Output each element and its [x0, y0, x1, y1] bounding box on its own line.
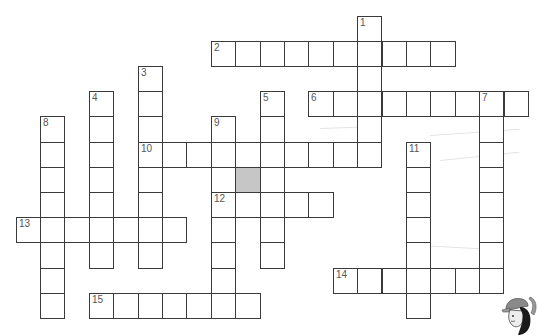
- crossword-cell[interactable]: [260, 192, 285, 218]
- crossword-cell[interactable]: [260, 217, 285, 243]
- crossword-cell[interactable]: [211, 293, 236, 319]
- crossword-cell[interactable]: [40, 167, 65, 193]
- crossword-cell[interactable]: [138, 116, 163, 143]
- crossword-cell[interactable]: 15: [89, 293, 114, 319]
- crossword-cell[interactable]: 9: [211, 116, 236, 143]
- crossword-cell[interactable]: [406, 268, 431, 294]
- crossword-cell[interactable]: [211, 268, 236, 294]
- crossword-cell[interactable]: [430, 91, 456, 117]
- crossword-cell[interactable]: [406, 242, 431, 269]
- crossword-cell[interactable]: [40, 293, 65, 319]
- crossword-cell[interactable]: [40, 192, 65, 218]
- crossword-cell[interactable]: [479, 217, 504, 243]
- crossword-cell[interactable]: [89, 167, 114, 193]
- crossword-cell[interactable]: [113, 293, 139, 319]
- crossword-cell[interactable]: [138, 293, 163, 319]
- crossword-cell[interactable]: [357, 268, 382, 294]
- crossword-cell[interactable]: [479, 268, 504, 294]
- crossword-cell[interactable]: [406, 91, 431, 117]
- crossword-cell[interactable]: [308, 142, 334, 168]
- crossword-cell[interactable]: [138, 217, 163, 243]
- crossword-cell[interactable]: [162, 142, 187, 168]
- crossword-cell[interactable]: [406, 217, 431, 243]
- crossword-cell[interactable]: [284, 192, 309, 218]
- crossword-cell[interactable]: [382, 41, 407, 67]
- crossword-cell[interactable]: [406, 167, 431, 193]
- crossword-cell[interactable]: 11: [406, 142, 431, 168]
- crossword-cell[interactable]: [211, 167, 236, 193]
- crossword-cell[interactable]: [235, 41, 261, 67]
- clue-number: 13: [19, 219, 30, 229]
- crossword-cell[interactable]: [186, 142, 212, 168]
- crossword-cell[interactable]: [479, 167, 504, 193]
- crossword-cell[interactable]: [162, 293, 187, 319]
- crossword-cell[interactable]: [308, 41, 334, 67]
- crossword-cell[interactable]: [40, 242, 65, 269]
- crossword-cell[interactable]: [260, 167, 285, 193]
- crossword-cell[interactable]: [89, 242, 114, 269]
- crossword-cell[interactable]: [260, 242, 285, 269]
- crossword-cell[interactable]: [406, 41, 431, 67]
- crossword-cell[interactable]: 1: [357, 16, 382, 42]
- crossword-cell[interactable]: [284, 41, 309, 67]
- crossword-cell[interactable]: 14: [333, 268, 358, 294]
- crossword-cell[interactable]: [406, 293, 431, 319]
- crossword-cell[interactable]: [382, 268, 407, 294]
- crossword-cell[interactable]: [406, 192, 431, 218]
- crossword-cell[interactable]: [260, 142, 285, 168]
- crossword-cell[interactable]: 3: [138, 66, 163, 92]
- crossword-cell[interactable]: [455, 91, 480, 117]
- crossword-cell[interactable]: 2: [211, 41, 236, 67]
- crossword-cell[interactable]: [260, 116, 285, 143]
- crossword-cell[interactable]: [89, 116, 114, 143]
- crossword-cell[interactable]: [357, 91, 382, 117]
- crossword-cell[interactable]: [357, 142, 382, 168]
- crossword-cell[interactable]: 8: [40, 116, 65, 143]
- crossword-cell[interactable]: 13: [16, 217, 41, 243]
- crossword-cell[interactable]: [138, 167, 163, 193]
- crossword-cell[interactable]: [138, 91, 163, 117]
- crossword-cell[interactable]: [235, 142, 261, 168]
- crossword-cell[interactable]: 7: [479, 91, 504, 117]
- crossword-cell[interactable]: [211, 142, 236, 168]
- crossword-cell[interactable]: [333, 91, 358, 117]
- crossword-cell[interactable]: [235, 293, 261, 319]
- crossword-cell[interactable]: 4: [89, 91, 114, 117]
- crossword-cell[interactable]: 5: [260, 91, 285, 117]
- crossword-cell[interactable]: [430, 41, 456, 67]
- crossword-cell[interactable]: [455, 268, 480, 294]
- crossword-cell[interactable]: [333, 41, 358, 67]
- crossword-cell[interactable]: [211, 242, 236, 269]
- crossword-cell[interactable]: [113, 217, 139, 243]
- crossword-cell[interactable]: [138, 192, 163, 218]
- crossword-cell[interactable]: [504, 91, 529, 117]
- crossword-cell[interactable]: [284, 142, 309, 168]
- crossword-cell[interactable]: [89, 217, 114, 243]
- crossword-cell[interactable]: [162, 217, 187, 243]
- crossword-cell[interactable]: [382, 91, 407, 117]
- crossword-cell[interactable]: [479, 142, 504, 168]
- crossword-cell[interactable]: [211, 217, 236, 243]
- crossword-cell[interactable]: 10: [138, 142, 163, 168]
- crossword-cell[interactable]: [186, 293, 212, 319]
- crossword-cell[interactable]: [357, 41, 382, 67]
- crossword-cell[interactable]: [479, 242, 504, 269]
- crossword-cell[interactable]: [260, 41, 285, 67]
- crossword-cell[interactable]: [89, 142, 114, 168]
- crossword-cell[interactable]: [430, 268, 456, 294]
- crossword-cell[interactable]: [479, 192, 504, 218]
- crossword-cell[interactable]: 12: [211, 192, 236, 218]
- crossword-cell[interactable]: [40, 268, 65, 294]
- crossword-cell[interactable]: [357, 116, 382, 143]
- crossword-cell[interactable]: 6: [308, 91, 334, 117]
- crossword-cell[interactable]: [89, 192, 114, 218]
- crossword-cell[interactable]: [138, 242, 163, 269]
- crossword-cell[interactable]: [308, 192, 334, 218]
- crossword-cell[interactable]: [333, 142, 358, 168]
- crossword-cell[interactable]: [40, 142, 65, 168]
- crossword-cell[interactable]: [40, 217, 65, 243]
- crossword-cell[interactable]: [357, 66, 382, 92]
- crossword-cell[interactable]: [64, 217, 90, 243]
- crossword-cell[interactable]: [235, 192, 261, 218]
- crossword-cell[interactable]: [479, 116, 504, 143]
